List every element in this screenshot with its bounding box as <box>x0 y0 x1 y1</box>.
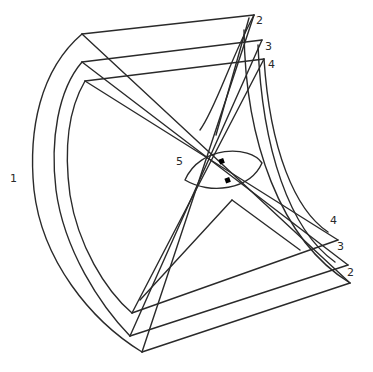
outer-top-edge <box>82 15 254 34</box>
label-4-bottom: 4 <box>330 214 337 227</box>
inner-arc <box>67 81 132 313</box>
label-3-top: 3 <box>265 40 272 53</box>
label-4-top: 4 <box>268 58 275 71</box>
label-3-bottom: 3 <box>337 240 344 253</box>
bottom-notch <box>232 200 300 250</box>
label-2-top: 2 <box>256 14 263 27</box>
lens-marker-top <box>218 158 224 164</box>
diagram-canvas: 1 2 3 4 5 4 3 2 <box>0 0 373 372</box>
label-2-bottom: 2 <box>347 266 354 279</box>
right-curve-4 <box>264 59 328 232</box>
bottom-v <box>140 200 232 300</box>
middle-bottom-diagonal <box>130 40 262 336</box>
outer-top-diagonal <box>82 34 350 283</box>
middle-top-edge <box>82 40 262 62</box>
label-5: 5 <box>176 155 183 168</box>
middle-arc <box>54 62 130 336</box>
shell-sketch <box>0 0 373 372</box>
outer-bottom-edge <box>142 283 350 352</box>
label-1: 1 <box>10 172 17 185</box>
lens-marker-bottom <box>224 177 230 183</box>
